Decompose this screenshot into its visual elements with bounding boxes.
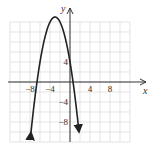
y-tick-label: −8 [58, 117, 68, 127]
y-tick-label: −4 [58, 97, 68, 107]
y-axis-label: y [60, 3, 66, 14]
parabola-graph: xy−8−4484−4−8 [0, 0, 153, 151]
x-axis-label: x [142, 85, 148, 96]
x-tick-label: −8 [25, 84, 35, 94]
x-tick-label: 4 [88, 84, 93, 94]
y-tick-label: 4 [64, 57, 69, 67]
parabola-curve [31, 17, 79, 132]
x-tick-label: 8 [108, 84, 113, 94]
x-tick-label: −4 [45, 84, 55, 94]
